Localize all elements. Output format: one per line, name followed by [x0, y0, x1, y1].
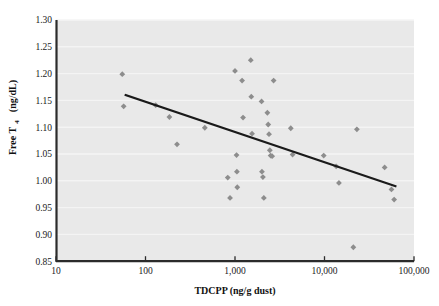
y-tick-label: 1.10 [35, 123, 52, 133]
y-tick-label: 0.95 [35, 203, 52, 213]
x-tick-label: 10 [51, 266, 61, 276]
y-tick-label: 1.00 [35, 176, 52, 186]
x-tick-label: 100 [138, 266, 153, 276]
x-tick-label: 1,000 [224, 266, 246, 276]
y-tick-label: 1.05 [35, 149, 52, 159]
chart-figure: 101001,00010,000100,000 0.850.900.951.00… [0, 0, 439, 306]
y-tick-label: 1.15 [35, 96, 52, 106]
scatter-plot: 101001,00010,000100,000 0.850.900.951.00… [0, 0, 439, 306]
y-tick-label: 0.90 [35, 230, 52, 240]
x-axis-title-group: TDCPP (ng/g dust) [194, 285, 275, 297]
y-tick-label: 1.25 [35, 42, 52, 52]
y-tick-label: 1.20 [35, 69, 52, 79]
x-tick-label: 10,000 [311, 266, 337, 276]
y-axis-title-main: Free T [7, 127, 18, 156]
x-tick-label: 100,000 [399, 266, 430, 276]
y-tick-label: 0.85 [35, 257, 52, 267]
y-tick-label: 1.30 [35, 15, 52, 25]
x-axis-title: TDCPP (ng/g dust) [194, 285, 275, 297]
y-axis-title-subscript: 4 [13, 120, 21, 124]
plot-area-background [56, 20, 414, 262]
y-axis-title-units: (ng/dL) [7, 80, 19, 112]
